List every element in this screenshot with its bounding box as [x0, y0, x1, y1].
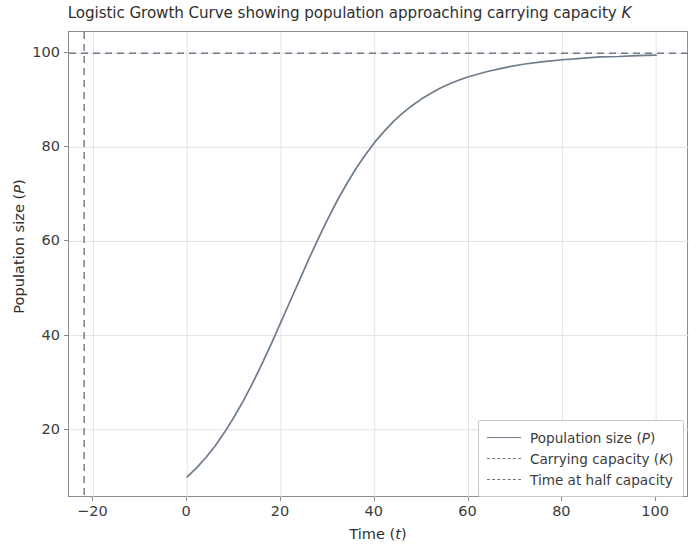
x-tick-mark — [561, 497, 562, 501]
y-axis-label: Population size (P) — [10, 137, 27, 357]
x-tick-mark — [374, 497, 375, 501]
y-axis-label-math-p: P — [10, 185, 27, 194]
x-tick-label: 60 — [433, 503, 503, 519]
legend-label-text: Time at half capacity — [530, 472, 673, 488]
legend-item[interactable]: Time at half capacity — [487, 469, 675, 490]
legend-line-swatch-dashed — [487, 453, 521, 465]
legend-label-math: K — [659, 451, 668, 467]
legend-item[interactable]: Carrying capacity (K) — [487, 448, 675, 469]
x-tick-label: 80 — [526, 503, 596, 519]
x-tick-label: −20 — [57, 503, 127, 519]
x-tick-label: 20 — [245, 503, 315, 519]
y-axis-label-text: Population size ( — [10, 194, 27, 314]
legend-item-label: Time at half capacity — [530, 472, 673, 488]
matplotlib-figure: Logistic Growth Curve showing population… — [0, 0, 699, 556]
x-tick-mark — [280, 497, 281, 501]
legend-label-text: Population size ( — [530, 430, 642, 446]
legend-label-text: Carrying capacity ( — [530, 451, 659, 467]
legend-line-swatch-dashed — [487, 474, 521, 486]
legend-label-math: P — [642, 430, 650, 446]
x-tick-label: 40 — [339, 503, 409, 519]
legend-item[interactable]: Population size (P) — [487, 427, 675, 448]
x-tick-mark — [186, 497, 187, 501]
legend-label-close: ) — [650, 430, 655, 446]
legend-item-label: Population size (P) — [530, 430, 655, 446]
x-axis-label: Time (t) — [68, 525, 688, 542]
x-tick-mark — [655, 497, 656, 501]
x-tick-mark — [468, 497, 469, 501]
x-tick-mark — [92, 497, 93, 501]
x-axis-label-text: Time ( — [349, 525, 395, 542]
x-tick-label: 100 — [620, 503, 690, 519]
legend-label-close: ) — [668, 451, 673, 467]
x-tick-label: 0 — [151, 503, 221, 519]
legend-line-swatch-solid — [487, 432, 521, 444]
chart-legend: Population size (P)Carrying capacity (K)… — [478, 420, 684, 497]
y-axis-label-close: ) — [10, 179, 27, 185]
x-axis-label-close: ) — [401, 525, 407, 542]
legend-item-label: Carrying capacity (K) — [530, 451, 673, 467]
